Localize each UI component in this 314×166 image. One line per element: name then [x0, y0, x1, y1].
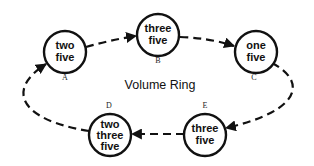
node-b-line-2: five — [149, 34, 168, 46]
diagram-title: Volume Ring — [125, 78, 196, 92]
node-b-label: B — [155, 56, 160, 65]
node-c-line-2: five — [247, 51, 266, 63]
node-e-line-1: three — [192, 122, 219, 134]
node-a-line-2: five — [56, 51, 75, 63]
node-d-label: D — [106, 101, 112, 110]
node-c: one five C — [235, 31, 277, 82]
node-c-label: C — [251, 73, 256, 82]
node-b-line-1: three — [145, 22, 172, 34]
node-d: two three five D — [89, 101, 131, 156]
node-d-line-3: five — [101, 140, 120, 152]
edge-a-to-b — [86, 36, 136, 47]
node-a-label: A — [62, 73, 68, 82]
edge-d-to-a — [23, 64, 89, 131]
node-e-label: E — [203, 101, 208, 110]
volume-ring-diagram: Volume Ring two five A three five B one … — [0, 0, 314, 166]
node-e: three five E — [184, 101, 226, 156]
node-a: two five A — [44, 31, 86, 82]
node-c-line-1: one — [246, 39, 266, 51]
node-e-line-2: five — [196, 134, 215, 146]
node-b: three five B — [137, 14, 179, 65]
edge-b-to-c — [180, 37, 234, 46]
node-a-line-1: two — [56, 39, 75, 51]
